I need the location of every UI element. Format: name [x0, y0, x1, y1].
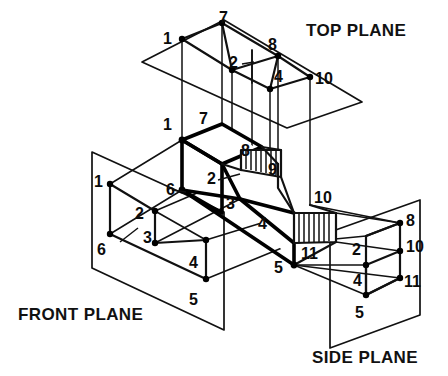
vertex-number: 1 [163, 30, 172, 47]
vertex-number: 5 [274, 259, 283, 276]
vertex-number: 10 [315, 70, 333, 87]
vertex-number: 8 [406, 212, 415, 229]
isometric-projection-figure: TOP PLANE FRONT PLANE SIDE PLANE 7 1 8 2… [0, 0, 448, 376]
vertex-number: 1 [94, 173, 103, 190]
vertex-number: 4 [258, 215, 267, 232]
side-plane-label: SIDE PLANE [312, 348, 418, 367]
vertex-number: 9 [268, 161, 277, 178]
vertex-number: 4 [274, 68, 283, 85]
side-plane-projected-view [366, 223, 400, 295]
lower-hatched-face [294, 213, 336, 243]
vertex-number: 11 [301, 245, 318, 262]
vertex-number: 6 [166, 181, 175, 198]
vertex-number: 2 [135, 205, 144, 222]
vertex-number: 5 [355, 304, 364, 321]
vertex-number: 10 [406, 238, 424, 255]
vertex-number: 8 [268, 36, 277, 53]
vertex-number: 8 [241, 142, 250, 159]
vertex-number: 7 [199, 110, 208, 127]
vertex-number: 4 [353, 272, 362, 289]
vertex-number: 2 [352, 241, 361, 258]
vertex-number: 3 [143, 229, 152, 246]
vertex-number: 1 [163, 116, 172, 133]
vertex-number: 2 [207, 170, 216, 187]
vertex-number: 4 [189, 254, 198, 271]
vertex-number: 3 [226, 195, 235, 212]
front-plane-label: FRONT PLANE [18, 305, 143, 324]
vertex-number: 7 [219, 9, 228, 26]
vertex-number: 10 [314, 189, 332, 206]
top-plane-label: TOP PLANE [306, 21, 406, 40]
vertex-number: 2 [229, 54, 238, 71]
vertex-number: 5 [189, 291, 198, 308]
vertex-number: 6 [97, 241, 106, 258]
vertex-number: 11 [404, 273, 421, 290]
